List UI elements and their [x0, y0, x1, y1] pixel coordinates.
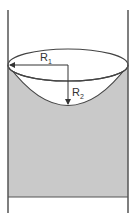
meniscus-diagram: R1 R2: [0, 0, 137, 213]
diagram-svg: R1 R2: [0, 0, 137, 213]
r2-label: R2: [72, 86, 84, 100]
